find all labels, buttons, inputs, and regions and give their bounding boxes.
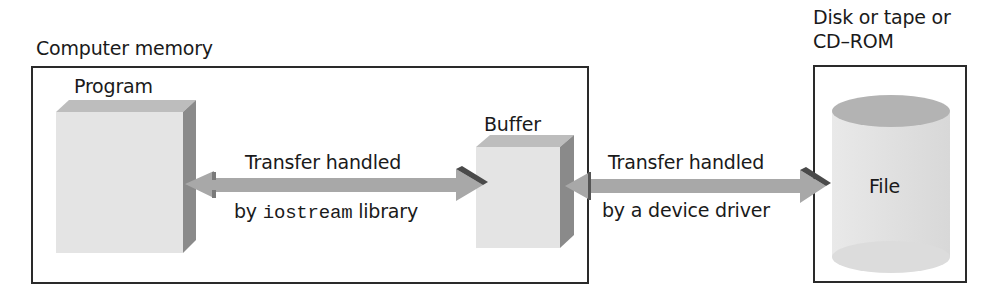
diagram-shapes: [0, 0, 993, 301]
buffer-label: Buffer: [484, 113, 541, 135]
program-label: Program: [74, 75, 153, 97]
file-label: File: [869, 175, 900, 197]
edge1-label-top: Transfer handled: [245, 151, 401, 173]
program-block: [56, 100, 196, 253]
edge1-label-bottom: by iostream library: [234, 200, 418, 224]
buffer-block: [476, 135, 574, 248]
edge2-label-bottom: by a device driver: [602, 199, 770, 221]
edge1-label-suffix: library: [352, 200, 418, 222]
edge1-label-prefix: by: [234, 200, 263, 222]
edge1-label-code: iostream: [263, 202, 353, 224]
edge2-label-top: Transfer handled: [608, 151, 764, 173]
